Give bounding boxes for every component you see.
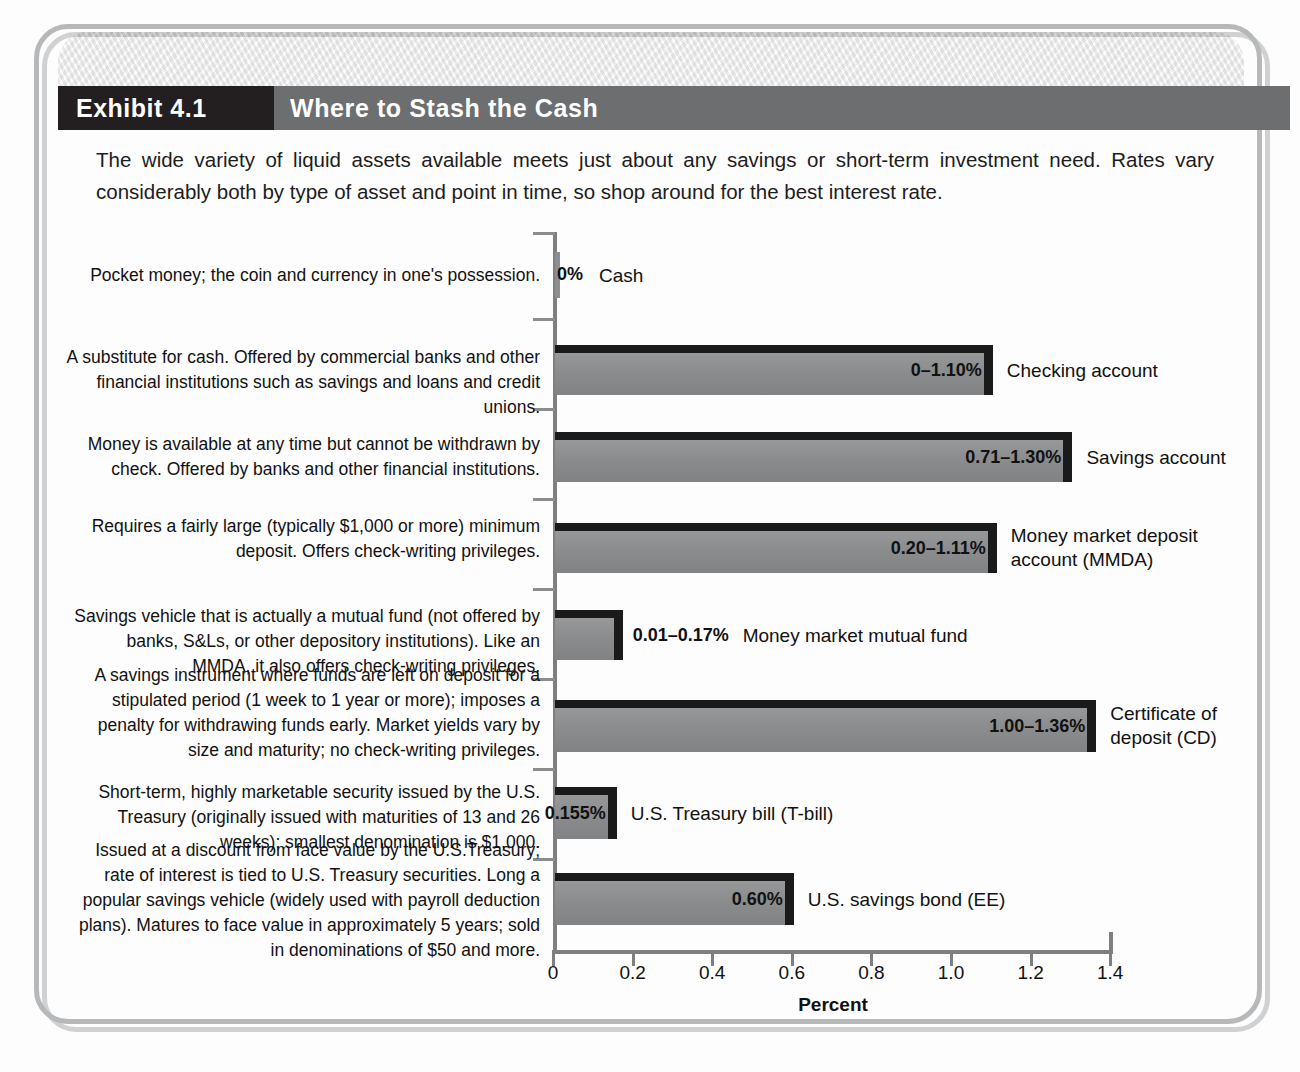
bar-value-label: 0.155% (545, 803, 606, 824)
exhibit-title: Where to Stash the Cash (290, 86, 598, 130)
row-description-text: Requires a fairly large (typically $1,00… (64, 514, 540, 564)
row-description: A substitute for cash. Offered by commer… (64, 345, 540, 420)
x-axis-tick-label: 0 (548, 962, 559, 984)
row-description: Pocket money; the coin and currency in o… (64, 263, 540, 288)
category-separator-tick (533, 498, 555, 501)
row-description-text: A substitute for cash. Offered by commer… (64, 345, 540, 420)
row-description-text: Issued at a discount from face value by … (64, 838, 540, 963)
exhibit-page: Exhibit 4.1 Where to Stash the Cash The … (0, 0, 1300, 1072)
bar-category-label: Money market deposit account (MMDA) (1011, 524, 1198, 572)
row-description: Issued at a discount from face value by … (64, 838, 540, 963)
bar-value-label: 0.71–1.30% (965, 447, 1061, 468)
row-description-text: A savings instrument where funds are lef… (64, 663, 540, 763)
bar-value-label: 0% (557, 264, 583, 285)
bar-value-label: 0.60% (732, 889, 783, 910)
bar-category-label: Checking account (1007, 359, 1158, 383)
category-separator-tick (533, 232, 555, 235)
category-separator-tick (533, 768, 555, 771)
x-axis-tick-label: 1.0 (938, 962, 964, 984)
row-description: A savings instrument where funds are lef… (64, 663, 540, 763)
y-axis-line (553, 232, 557, 954)
bar-category-label: Certificate of deposit (CD) (1110, 702, 1217, 750)
row-description: Money is available at any time but canno… (64, 432, 540, 482)
bar-category-label: U.S. Treasury bill (T-bill) (631, 802, 834, 826)
exhibit-number-label: Exhibit 4.1 (76, 86, 207, 130)
bar-category-label: Cash (599, 264, 643, 288)
bar-value-label: 1.00–1.36% (989, 716, 1085, 737)
category-separator-tick (533, 588, 555, 591)
x-axis-tick-label: 0.6 (779, 962, 805, 984)
row-description-text: Pocket money; the coin and currency in o… (64, 263, 540, 288)
bar-value-label: 0–1.10% (911, 360, 982, 381)
bar-category-label: Money market mutual fund (743, 624, 968, 648)
bar-value-label: 0.20–1.11% (891, 538, 986, 559)
x-axis-tick-label: 0.2 (619, 962, 645, 984)
bar-category-label: U.S. savings bond (EE) (808, 888, 1005, 912)
bar-category-label: Savings account (1086, 446, 1225, 470)
x-axis-tick-label: 0.4 (699, 962, 725, 984)
bar-value-label: 0.01–0.17% (633, 625, 729, 646)
x-axis-title: Percent (553, 994, 1113, 1016)
x-axis-tick-label: 0.8 (858, 962, 884, 984)
x-axis-tick-label: 1.4 (1097, 962, 1123, 984)
row-description-text: Money is available at any time but canno… (64, 432, 540, 482)
chart-bar (555, 610, 623, 660)
x-axis-tick-label: 1.2 (1017, 962, 1043, 984)
row-description: Requires a fairly large (typically $1,00… (64, 514, 540, 564)
horizontal-bar-chart: 00.20.40.60.81.01.21.4 Pocket money; the… (0, 0, 1300, 1072)
category-separator-tick (533, 318, 555, 321)
